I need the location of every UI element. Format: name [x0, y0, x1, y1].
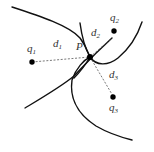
diagram: P q1 q2 q3 d1 d2 d3	[0, 0, 154, 152]
diagram-canvas: P q1 q2 q3 d1 d2 d3	[0, 0, 154, 152]
label-d1: d1	[53, 37, 62, 51]
distance-line-d1	[32, 57, 90, 62]
point-p	[87, 54, 93, 60]
point-q1	[29, 59, 34, 64]
label-d2: d2	[91, 26, 101, 40]
label-q1: q1	[27, 42, 36, 56]
label-d3: d3	[109, 68, 119, 82]
label-q2: q2	[110, 11, 120, 25]
point-q2	[111, 28, 116, 33]
label-q3: q3	[109, 101, 119, 115]
point-q3	[110, 94, 115, 99]
label-p: P	[75, 40, 83, 52]
curve-left-diagonal	[25, 38, 112, 108]
